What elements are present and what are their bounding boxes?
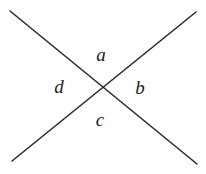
angle-label-d: d (54, 77, 64, 96)
figure-canvas (0, 0, 206, 174)
angle-label-b: b (135, 78, 145, 97)
angle-label-c: c (96, 110, 104, 129)
angle-label-a: a (96, 45, 106, 64)
crossing-lines-figure: a b c d (0, 0, 206, 174)
